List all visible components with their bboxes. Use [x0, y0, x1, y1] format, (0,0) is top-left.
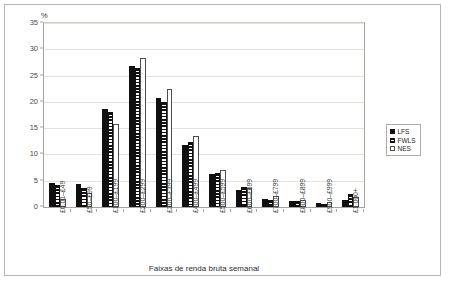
x-axis-tick-mark — [336, 209, 337, 212]
y-axis: 05101520253035 — [5, 22, 43, 208]
x-axis-tick-label: £400–£499 — [192, 179, 199, 213]
x-axis-tick-mark — [363, 209, 364, 212]
x-axis-tick-label: £0.01–£49 — [59, 181, 66, 213]
x-axis-tick-mark — [123, 209, 124, 212]
legend-item-fwls: FWLS — [390, 136, 416, 144]
y-axis-tick-label: 30 — [30, 44, 38, 53]
legend-label: FWLS — [398, 137, 416, 144]
legend-item-lfs: LFS — [390, 128, 416, 136]
y-axis-tick-label: 25 — [30, 70, 38, 79]
x-axis-tick-label: £50–£99 — [86, 186, 93, 213]
legend-label: LFS — [398, 128, 410, 135]
x-axis-tick-label: £1 000+ — [352, 188, 359, 213]
y-axis-tick-label: 20 — [30, 96, 38, 105]
x-axis-tick-mark — [283, 209, 284, 212]
empty-white-square-icon — [390, 146, 395, 151]
bar-group — [49, 23, 66, 207]
bars-layer — [44, 23, 364, 207]
x-axis-tick-label: £700–£799 — [272, 179, 279, 213]
legend-label: NES — [398, 145, 411, 152]
x-axis-tick-mark — [203, 209, 204, 212]
x-axis-tick-label: £800–£899 — [299, 179, 306, 213]
x-axis-tick-mark — [96, 209, 97, 212]
x-axis-tick-mark — [70, 209, 71, 212]
legend-item-nes: NES — [390, 145, 416, 153]
plot-area — [43, 22, 365, 208]
x-axis-tick-label: £900–£999 — [326, 179, 333, 213]
x-axis-tick-labels: £0.01–£49£50–£99£100–£199£200–£299£300–£… — [43, 209, 365, 261]
x-axis-tick-label: £100–£199 — [112, 179, 119, 213]
bar-group — [342, 23, 359, 207]
x-axis-tick-label: £200–£299 — [139, 179, 146, 213]
x-axis-tick-mark — [310, 209, 311, 212]
solid-black-square-icon — [390, 129, 395, 134]
horizontal-stripe-square-icon — [390, 138, 395, 143]
y-axis-tick-label: 5 — [34, 175, 38, 184]
chart-legend: LFSFWLSNES — [386, 124, 421, 156]
x-axis-tick-mark — [150, 209, 151, 212]
figure-frame: % 05101520253035 £0.01–£49£50–£99£100–£1… — [4, 4, 441, 276]
bar-group — [76, 23, 93, 207]
x-axis-tick-mark — [176, 209, 177, 212]
x-axis-tick-mark — [230, 209, 231, 212]
y-axis-tick-label: 0 — [34, 202, 38, 211]
y-axis-tick-label: 35 — [30, 18, 38, 27]
y-axis-tick-label: 10 — [30, 149, 38, 158]
y-axis-unit-label: % — [41, 11, 47, 20]
x-axis-tick-mark — [256, 209, 257, 212]
x-axis-tick-label: £600–£699 — [246, 179, 253, 213]
y-axis-tick-label: 15 — [30, 123, 38, 132]
x-axis-tick-label: £300–£399 — [166, 179, 173, 213]
x-axis-title: Faixas de renda bruta semanal — [43, 264, 365, 273]
x-axis-tick-label: £500–£599 — [219, 179, 226, 213]
